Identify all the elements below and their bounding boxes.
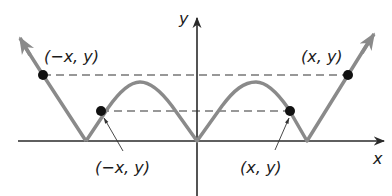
pointer-lower-right [275, 118, 289, 150]
label-lower-left: (−x, y) [95, 158, 150, 177]
even-function-diagram: y x (−x, y) (x, y) (−x, y) (x, y) [0, 0, 392, 196]
pointer-lower-left [104, 118, 123, 151]
right-curve-arrow [362, 34, 374, 53]
label-lower-right: (x, y) [240, 158, 282, 177]
point-upper-right [343, 70, 353, 80]
label-upper-right: (x, y) [301, 47, 343, 66]
y-axis-label: y [178, 9, 189, 28]
point-lower-left [96, 106, 106, 116]
point-lower-right [285, 106, 295, 116]
label-upper-left: (−x, y) [44, 47, 99, 66]
left-curve-arrow [20, 38, 30, 55]
point-upper-left [38, 70, 48, 80]
x-axis-label: x [372, 149, 383, 168]
